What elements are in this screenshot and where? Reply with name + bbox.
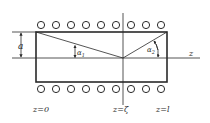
alpha1-label: α1 xyxy=(77,49,85,58)
coil-row-top xyxy=(37,21,164,28)
zeta-label: z=ζ xyxy=(112,105,129,114)
z-axis-label: z xyxy=(188,49,194,58)
alpha2-ray xyxy=(123,32,167,58)
radius-label: a xyxy=(18,41,23,51)
z0-label: z=0 xyxy=(32,105,49,114)
coil-row-bottom xyxy=(37,85,164,92)
alpha2-label: α2 xyxy=(147,46,155,55)
zl-label: z=l xyxy=(155,105,170,114)
solenoid-diagram: a α1 α2 z z=0 z=ζ z=l xyxy=(0,0,210,123)
solenoid-body xyxy=(36,32,167,82)
